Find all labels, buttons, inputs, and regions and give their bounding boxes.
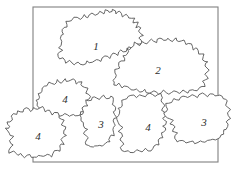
region-4-left-label: 4 <box>35 130 41 142</box>
region-3-right[interactable] <box>164 93 231 144</box>
map-coloring-figure: 1244343 <box>0 0 244 174</box>
region-4-lower-label: 4 <box>145 121 151 133</box>
region-3-middle-label: 3 <box>98 118 104 130</box>
region-1-label: 1 <box>93 40 99 52</box>
region-3-right-label: 3 <box>201 116 207 128</box>
region-2-label: 2 <box>155 64 161 76</box>
map-canvas <box>0 0 244 174</box>
region-4-lower[interactable] <box>117 93 167 152</box>
region-4-upper-label: 4 <box>62 93 68 105</box>
